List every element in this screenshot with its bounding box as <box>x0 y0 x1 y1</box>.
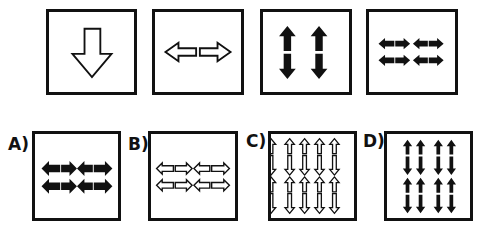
sequence-box-4 <box>366 9 458 95</box>
option-c-box[interactable] <box>268 131 357 221</box>
vertical-black-arrows-icon <box>263 12 349 92</box>
vertical-black-arrows-icon <box>387 134 470 218</box>
horizontal-black-arrows-icon <box>35 134 118 218</box>
option-d-label: D) <box>363 131 385 151</box>
option-c-label: C) <box>246 131 266 151</box>
horizontal-outlined-arrows-icon <box>151 134 235 218</box>
option-a-label: A) <box>8 134 29 154</box>
option-b-box[interactable] <box>148 131 238 221</box>
down-arrow-icon <box>49 12 134 92</box>
left-right-outlined-arrows-icon <box>155 12 241 92</box>
vertical-outlined-arrows-icon <box>271 134 354 218</box>
option-d-box[interactable] <box>384 131 473 221</box>
sequence-box-2 <box>152 9 244 95</box>
option-a-box[interactable] <box>32 131 121 221</box>
horizontal-black-arrows-icon <box>369 12 455 92</box>
option-b-label: B) <box>128 134 149 154</box>
sequence-box-3 <box>260 9 352 95</box>
sequence-box-1 <box>46 9 137 95</box>
